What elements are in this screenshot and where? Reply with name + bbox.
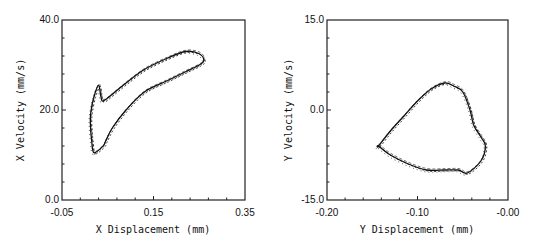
y-tick-label-mid: 0.0 <box>310 104 324 115</box>
left-chart: 40.0 20.0 0.0 -0.05 0.15 0.35 X Displace… <box>0 0 270 246</box>
right-chart: 15.0 0.0 -15.0 -0.20 -0.10 -0.00 Y Displ… <box>270 0 537 246</box>
x-tick-label-right: 0.35 <box>235 207 254 218</box>
y-tick-label-bottom: -15.0 <box>301 194 324 205</box>
y-tick-label-bottom: 0.0 <box>45 194 59 205</box>
y-tick-label-top: 40.0 <box>40 14 59 25</box>
x-tick-label-right: -0.00 <box>497 207 520 218</box>
y-tick-label-mid: 20.0 <box>40 104 59 115</box>
x-tick-label-mid: -0.10 <box>406 207 429 218</box>
x-axis-label: Y Displacement (mm) <box>360 224 474 235</box>
x-axis-label: X Displacement (mm) <box>96 224 210 235</box>
left-plot-area <box>0 0 270 246</box>
y-tick-label-top: 15.0 <box>305 14 324 25</box>
y-axis-label: X Velocity (mm/s) <box>15 59 26 161</box>
x-tick-label-left: -0.05 <box>51 207 74 218</box>
y-axis-label: Y Velocity (mm/s) <box>283 59 294 161</box>
x-tick-label-mid: 0.15 <box>144 207 163 218</box>
x-tick-label-left: -0.20 <box>316 207 339 218</box>
